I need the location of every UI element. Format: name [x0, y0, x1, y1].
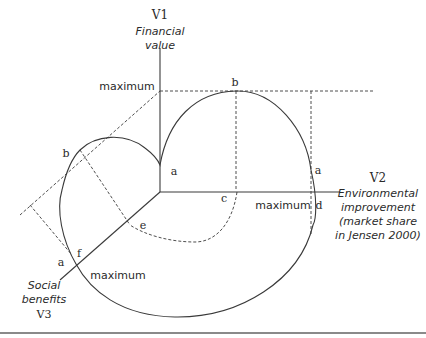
v1-axis-label-1: Financial — [136, 25, 185, 38]
v2-axis-label-1: Environmental — [338, 187, 418, 200]
v2-axis-label-4: in Jensen 2000) — [335, 229, 421, 242]
point-label-a-left: a — [58, 256, 65, 269]
projection-to-a — [30, 205, 72, 255]
v2-axis-label-2: improvement — [341, 201, 416, 214]
point-label-a-v1: a — [171, 165, 178, 178]
v3-axis-id: V3 — [36, 308, 52, 321]
maximum-label-v3: maximum — [90, 269, 145, 282]
maximum-labels: maximum maximum maximum — [90, 80, 310, 282]
axis-v3 — [60, 192, 160, 280]
point-label-b-top: b — [231, 76, 238, 89]
maximum-label-v1: maximum — [99, 80, 154, 93]
v2-axis-label-3: (market share — [339, 215, 417, 228]
point-label-c: c — [221, 192, 227, 205]
v3-axis-label-2: benefits — [22, 293, 67, 306]
maximum-label-v2: maximum — [255, 199, 310, 212]
projection-b-e — [80, 150, 130, 225]
point-label-e: e — [140, 219, 147, 232]
three-value-dimension-diagram: V1 Financial value V2 Environmental impr… — [0, 0, 426, 338]
point-label-b-left: b — [62, 147, 69, 160]
point-label-f: f — [77, 247, 82, 260]
point-label-a-right: a — [315, 164, 322, 177]
point-labels: b a a c d b e f a — [58, 76, 323, 269]
diagonal-maximum-line — [20, 91, 160, 215]
v1-axis-label-2: value — [145, 39, 175, 52]
v2-axis-id: V2 — [369, 171, 386, 185]
v3-axis-label-1: Social — [28, 279, 61, 292]
construction-lines — [20, 91, 375, 255]
axis-labels: V1 Financial value V2 Environmental impr… — [22, 8, 421, 321]
v1-axis-id: V1 — [151, 8, 168, 22]
point-label-d: d — [315, 199, 322, 212]
